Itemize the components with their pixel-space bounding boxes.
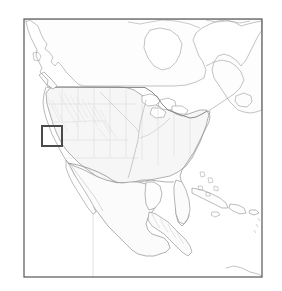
figure-root: North America locator map western United… [0,0,282,291]
north-america-map [0,0,282,291]
us-canada-border-49th-parallel [47,87,145,88]
